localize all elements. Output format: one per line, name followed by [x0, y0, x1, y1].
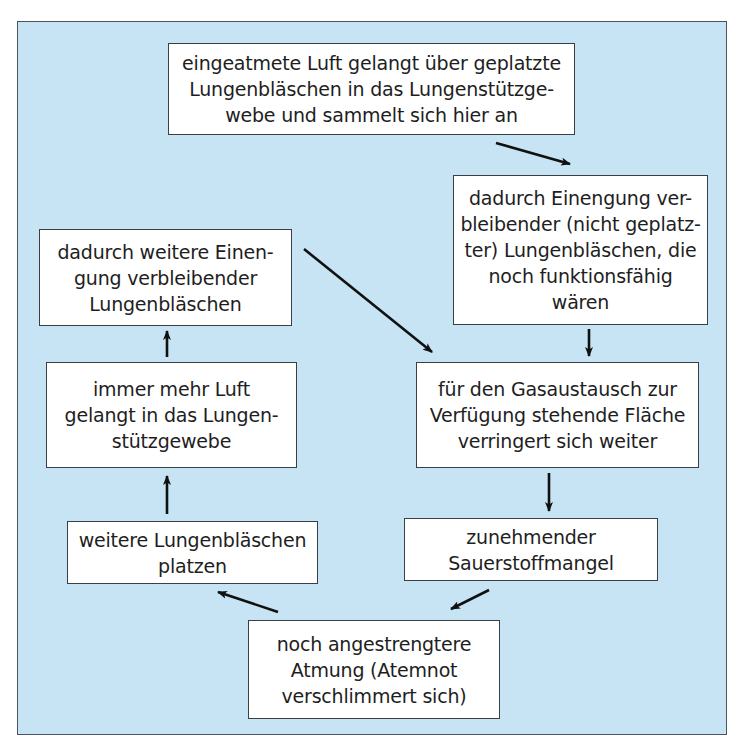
node-label: noch angestrengtere Atmung (Atemnot vers…: [277, 631, 472, 709]
node-more-air-into-tissue: immer mehr Luft gelangt in das Lungen- s…: [46, 362, 297, 468]
node-increasing-oxygen-deficiency: zunehmender Sauerstoffmangel: [404, 518, 658, 581]
node-further-constriction: dadurch weitere Einen- gung verbleibende…: [39, 229, 292, 326]
node-more-strenuous-breathing: noch angestrengtere Atmung (Atemnot vers…: [248, 620, 500, 719]
node-more-alveoli-burst: weitere Lungenbläschen platzen: [67, 521, 318, 584]
node-label: dadurch weitere Einen- gung verbleibende…: [57, 239, 273, 317]
node-gas-exchange-area-decreases: für den Gasaustausch zur Verfügung stehe…: [416, 362, 699, 468]
node-label: dadurch Einengung ver- bleibender (nicht…: [460, 185, 700, 315]
node-label: zunehmender Sauerstoffmangel: [448, 524, 614, 576]
node-label: für den Gasaustausch zur Verfügung stehe…: [430, 376, 686, 454]
node-inhaled-air-collects: eingeatmete Luft gelangt über geplatzte …: [168, 43, 575, 135]
node-constriction-remaining-alveoli: dadurch Einengung ver- bleibender (nicht…: [453, 175, 708, 325]
node-label: eingeatmete Luft gelangt über geplatzte …: [182, 50, 561, 128]
node-label: immer mehr Luft gelangt in das Lungen- s…: [65, 376, 279, 454]
node-label: weitere Lungenbläschen platzen: [79, 527, 307, 579]
